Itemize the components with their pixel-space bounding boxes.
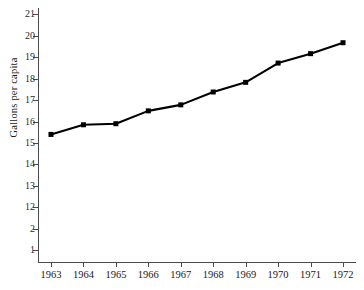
- y-tick-label: 12: [25, 202, 35, 212]
- y-tick-label: 16: [25, 117, 35, 127]
- data-point-1967: [178, 102, 183, 107]
- y-tick-label: 2: [30, 224, 35, 234]
- data-point-1965: [113, 121, 118, 126]
- data-point-1969: [243, 80, 248, 85]
- x-tick-label-1971: 1971: [300, 270, 321, 281]
- series-line: [51, 43, 343, 135]
- y-tick-label: 20: [25, 31, 35, 41]
- x-tick-label-1970: 1970: [268, 270, 289, 281]
- y-tick-label: 18: [25, 74, 35, 84]
- data-point-1966: [146, 108, 151, 113]
- data-series-gallons-per-capita: [38, 8, 356, 263]
- x-tick-label-1964: 1964: [73, 270, 94, 281]
- data-point-1970: [276, 61, 281, 66]
- y-tick-label: 21: [25, 9, 35, 19]
- x-tick-label-1969: 1969: [235, 270, 256, 281]
- data-point-1971: [308, 51, 313, 56]
- x-tick-label-1966: 1966: [138, 270, 159, 281]
- data-point-1964: [81, 122, 86, 127]
- x-tick-label-1972: 1972: [333, 270, 354, 281]
- y-tick-label: 17: [25, 95, 35, 105]
- y-tick-label: 15: [25, 138, 35, 148]
- data-point-1963: [48, 132, 53, 137]
- x-tick-label-1963: 1963: [40, 270, 61, 281]
- line-chart: Gallons per capita 212019181716151413122…: [0, 0, 364, 290]
- y-axis-title: Gallons per capita: [8, 43, 19, 153]
- series-markers: [48, 40, 345, 137]
- data-point-1972: [341, 40, 346, 45]
- data-point-1968: [211, 90, 216, 95]
- y-tick-label: 1: [30, 245, 35, 255]
- x-tick-label-1967: 1967: [170, 270, 191, 281]
- y-tick-label: 14: [25, 159, 35, 169]
- y-tick-label: 13: [25, 181, 35, 191]
- x-tick-label-1965: 1965: [105, 270, 126, 281]
- y-tick-label: 19: [25, 52, 35, 62]
- x-tick-label-1968: 1968: [203, 270, 224, 281]
- plot-area: 2120191817161514131221 19631964196519661…: [38, 8, 356, 263]
